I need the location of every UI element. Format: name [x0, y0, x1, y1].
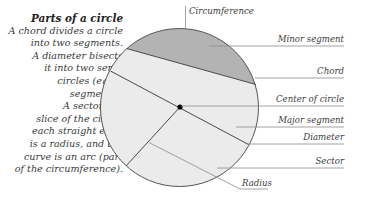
- label-sector: Sector: [315, 156, 344, 166]
- label-minor-segment: Minor segment: [277, 34, 345, 44]
- label-diameter: Diameter: [302, 132, 345, 142]
- center-dot: [177, 104, 182, 109]
- label-radius: Radius: [241, 178, 273, 188]
- label-circumference: Circumference: [189, 6, 254, 16]
- circle-diagram: Circumference Minor segment Chord Center…: [0, 0, 365, 207]
- label-center-of-circle: Center of circle: [276, 94, 344, 104]
- label-chord: Chord: [317, 66, 344, 76]
- label-major-segment: Major segment: [277, 115, 344, 125]
